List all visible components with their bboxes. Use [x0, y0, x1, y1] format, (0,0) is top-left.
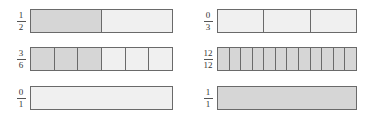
shaded-part	[218, 48, 230, 70]
shaded-part	[276, 48, 288, 70]
unshaded-part	[311, 10, 356, 32]
denominator: 12	[204, 60, 213, 70]
denominator: 3	[206, 22, 211, 32]
numerator: 0	[206, 11, 211, 21]
shaded-part	[311, 48, 323, 70]
fraction-strip-item: 03	[0, 9, 375, 33]
unshaded-part	[218, 10, 264, 32]
shaded-part	[299, 48, 311, 70]
shaded-part	[241, 48, 253, 70]
fraction-label: 1212	[201, 47, 215, 71]
fraction-strip-item: 1212	[0, 47, 375, 71]
denominator: 1	[206, 99, 211, 109]
shaded-part	[264, 48, 276, 70]
shaded-part	[322, 48, 334, 70]
shaded-part	[287, 48, 299, 70]
shaded-part	[334, 48, 346, 70]
fraction-label: 03	[201, 9, 215, 33]
shaded-part	[230, 48, 242, 70]
numerator: 12	[204, 49, 213, 59]
shaded-part	[345, 48, 356, 70]
shaded-part	[253, 48, 265, 70]
numerator: 1	[206, 88, 211, 98]
fraction-strip	[217, 86, 357, 110]
fraction-label: 11	[201, 86, 215, 110]
fraction-strip	[217, 9, 357, 33]
shaded-part	[218, 87, 356, 109]
unshaded-part	[264, 10, 310, 32]
fraction-strip	[217, 47, 357, 71]
fraction-strip-item: 11	[0, 86, 375, 110]
